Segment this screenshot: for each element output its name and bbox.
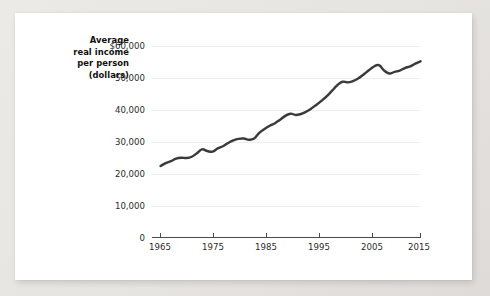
y-tick-label-20000: 20,000 <box>115 169 145 179</box>
x-tick-label-1965: 1965 <box>149 242 171 252</box>
y-tick-label-0: 0 <box>140 233 145 243</box>
x-tick-label-2005: 2005 <box>361 242 383 252</box>
line-chart: Average real income per person (dollars)… <box>15 13 472 280</box>
x-axis <box>152 233 421 238</box>
figure-card: Average real income per person (dollars)… <box>15 13 472 280</box>
x-tick-label-1995: 1995 <box>308 242 330 252</box>
y-axis-tick-labels: $60,000 50,000 40,000 30,000 20,000 10,0… <box>109 41 145 243</box>
y-tick-label-30000: 30,000 <box>115 137 145 147</box>
y-tick-label-40000: 40,000 <box>115 105 145 115</box>
x-tick-label-1975: 1975 <box>202 242 224 252</box>
y-tick-label-50000: 50,000 <box>115 73 145 83</box>
income-line-series <box>161 61 421 166</box>
y-tick-label-60000: $60,000 <box>109 41 145 51</box>
x-axis-tick-labels: 1965 1975 1985 1995 2005 2015 <box>149 242 430 252</box>
gridlines <box>152 46 421 206</box>
x-tick-label-1985: 1985 <box>255 242 277 252</box>
y-tick-label-10000: 10,000 <box>115 201 145 211</box>
x-tick-label-2015: 2015 <box>408 242 430 252</box>
page-root: Average real income per person (dollars)… <box>0 0 490 296</box>
plot-svg: $60,000 50,000 40,000 30,000 20,000 10,0… <box>15 13 472 280</box>
